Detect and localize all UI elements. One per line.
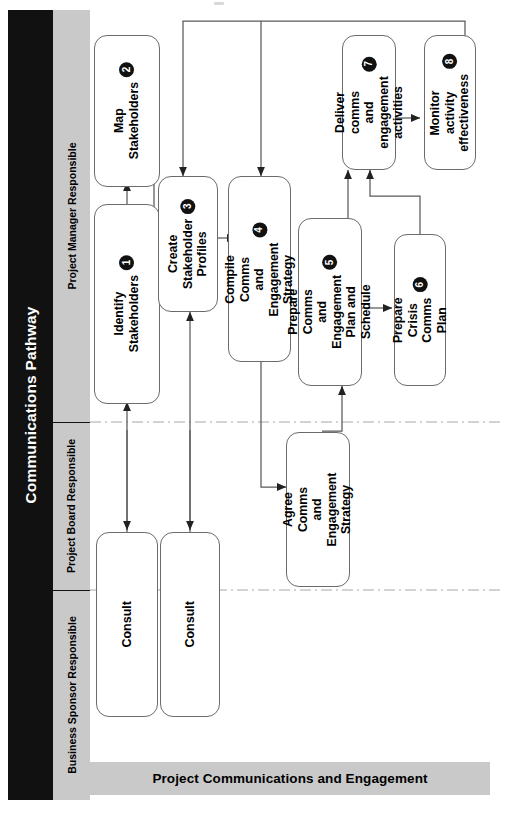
node-monitor-activity-effectiveness-badge: 8 (443, 54, 458, 69)
node-map-stakeholders-badge: 2 (120, 62, 135, 77)
lane-label-project-board-text: Project Board Responsible (66, 439, 78, 573)
node-consult-2-label: Consult (183, 601, 198, 648)
node-map-stakeholders[interactable]: Map Stakeholders 2 (94, 35, 160, 187)
node-prepare-crisis-comms-plan-badge: 6 (413, 277, 428, 292)
footer-banner-label: Project Communications and Engagement (152, 771, 427, 786)
lane-label-project-manager-text: Project Manager Responsible (66, 142, 78, 289)
lane-label-business-sponsor: Business Sponsor Responsible (53, 590, 90, 800)
node-deliver-comms-activities-badge: 7 (362, 56, 377, 71)
node-prepare-crisis-comms-plan-label: Prepare Crisis Comms Plan (391, 297, 449, 343)
node-prepare-crisis-comms-plan[interactable]: Prepare Crisis Comms Plan 6 (394, 234, 446, 386)
node-create-stakeholder-profiles-label: Create Stakeholder Profiles (166, 219, 210, 289)
node-consult-1[interactable]: Consult (96, 532, 158, 717)
node-deliver-comms-activities[interactable]: Deliver comms and engagement activities … (342, 35, 396, 170)
node-compile-comms-strategy[interactable]: Compile Comms and Engagement Strategy 4 (228, 176, 291, 362)
node-consult-2[interactable]: Consult (160, 532, 220, 717)
node-prepare-comms-plan-badge: 5 (323, 255, 338, 270)
diagram-page: Communications Pathway Project Manager R… (0, 0, 508, 816)
node-consult-1-label: Consult (120, 601, 135, 648)
scan-artifact (214, 2, 224, 5)
lane-label-business-sponsor-text: Business Sponsor Responsible (66, 616, 78, 774)
communications-pathway-banner: Communications Pathway (8, 10, 53, 800)
node-create-stakeholder-profiles[interactable]: Create Stakeholder Profiles 3 (158, 176, 218, 312)
node-deliver-comms-activities-label: Deliver comms and engagement activities (333, 76, 406, 148)
node-prepare-comms-plan-label: Prepare Comms and Engagement Plan and Sc… (286, 275, 374, 349)
swimlane-label-column: Project Manager Responsible Project Boar… (53, 10, 90, 800)
lane-label-project-manager: Project Manager Responsible (53, 10, 90, 422)
footer-banner: Project Communications and Engagement (90, 762, 490, 795)
node-create-stakeholder-profiles-badge: 3 (181, 199, 196, 214)
lane-divider-1 (53, 422, 90, 423)
node-agree-comms-strategy[interactable]: Agree Comms and Engagement Strategy (286, 432, 350, 587)
node-identify-stakeholders-badge: 1 (120, 255, 135, 270)
node-map-stakeholders-label: Map Stakeholders (112, 82, 141, 159)
node-monitor-activity-effectiveness-label: Monitor activity effectiveness (428, 74, 472, 152)
node-identify-stakeholders-label: Identify Stakeholders (112, 275, 141, 352)
page-title: Communications Pathway (22, 306, 40, 503)
node-prepare-comms-plan[interactable]: Prepare Comms and Engagement Plan and Sc… (298, 218, 362, 386)
lane-label-project-board: Project Board Responsible (53, 422, 90, 590)
node-monitor-activity-effectiveness[interactable]: Monitor activity effectiveness 8 (424, 35, 476, 170)
lane-divider-2 (53, 590, 90, 591)
node-compile-comms-strategy-label: Compile Comms and Engagement Strategy (223, 242, 296, 316)
node-agree-comms-strategy-label: Agree Comms and Engagement Strategy (282, 473, 355, 547)
node-compile-comms-strategy-badge: 4 (252, 222, 267, 237)
node-identify-stakeholders[interactable]: Identify Stakeholders 1 (94, 204, 160, 404)
flow-canvas: Identify Stakeholders 1 Map Stakeholders… (90, 10, 500, 755)
